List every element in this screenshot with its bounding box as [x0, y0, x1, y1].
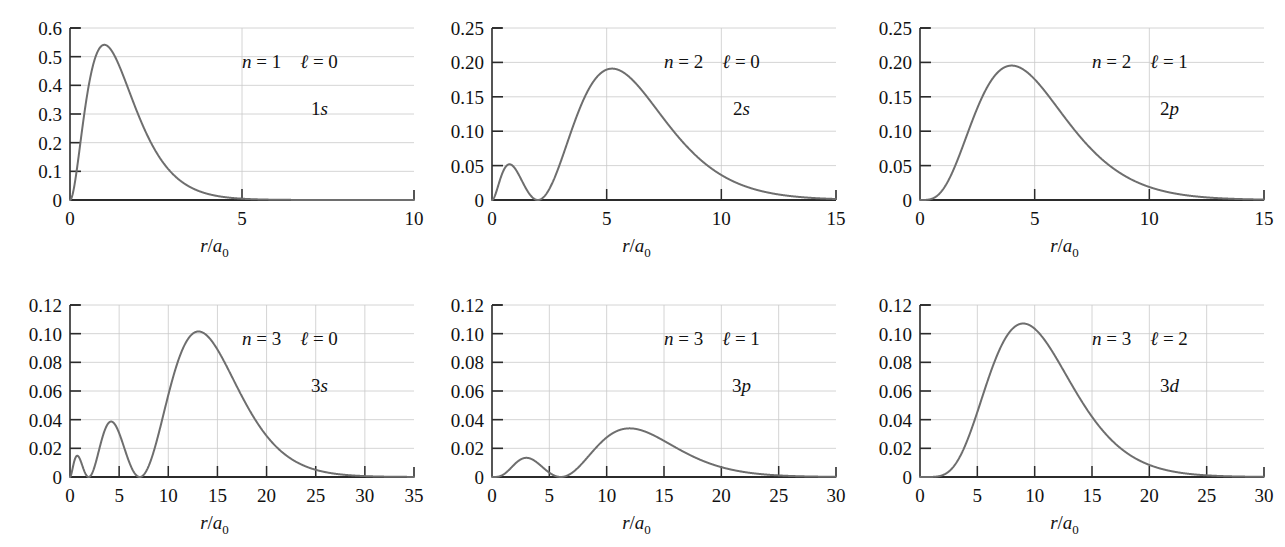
- chart-panel-1s: 00.10.20.30.40.50.60510r/a0n = 1 ℓ = 01s: [8, 8, 428, 270]
- x-axis-label: r/a0: [1050, 235, 1079, 260]
- x-tick-label: 0: [915, 485, 925, 506]
- x-tick-label: 15: [208, 485, 227, 506]
- x-tick-label: 25: [306, 485, 325, 506]
- y-axis-ticks: 00.050.100.150.200.25: [879, 18, 931, 211]
- x-tick-label: 15: [655, 485, 674, 506]
- x-axis-label: r/a0: [622, 512, 651, 537]
- x-tick-label: 30: [355, 485, 374, 506]
- y-axis-ticks: 00.020.040.060.080.100.12: [451, 295, 503, 488]
- x-tick-label: 30: [827, 485, 846, 506]
- y-tick-label: 0: [903, 190, 913, 211]
- y-tick-label: 0.10: [451, 121, 484, 142]
- y-tick-label: 0: [53, 190, 63, 211]
- y-tick-label: 0.10: [879, 121, 912, 142]
- annotation-orbital-label: 3d: [1160, 375, 1180, 396]
- x-tick-label: 5: [1030, 208, 1040, 229]
- plot-svg-3d: 00.020.040.060.080.100.12051015202530r/a…: [858, 285, 1278, 547]
- x-tick-label: 10: [597, 485, 616, 506]
- x-tick-label: 0: [65, 208, 75, 229]
- y-tick-label: 0.02: [879, 438, 912, 459]
- y-tick-label: 0.02: [29, 438, 62, 459]
- x-tick-label: 10: [1140, 208, 1159, 229]
- y-tick-label: 0.3: [38, 104, 62, 125]
- annotation-orbital-label: 1s: [311, 98, 328, 119]
- y-tick-label: 0: [475, 467, 485, 488]
- y-tick-label: 0: [903, 467, 913, 488]
- plot-svg-3p: 00.020.040.060.080.100.12051015202530r/a…: [430, 285, 850, 547]
- x-axis-ticks: 051015202530: [915, 466, 1273, 506]
- chart-panel-3s: 00.020.040.060.080.100.1205101520253035r…: [8, 285, 428, 547]
- annotation-orbital-label: 2p: [1160, 98, 1179, 119]
- annotation-quantum-numbers: n = 3 ℓ = 2: [1092, 328, 1188, 349]
- y-tick-label: 0.15: [451, 87, 484, 108]
- x-axis-label: r/a0: [622, 235, 651, 260]
- y-tick-label: 0.12: [451, 295, 484, 316]
- x-axis-ticks: 051015: [487, 189, 845, 229]
- x-tick-label: 15: [1255, 208, 1274, 229]
- chart-panel-3p: 00.020.040.060.080.100.12051015202530r/a…: [430, 285, 850, 547]
- y-tick-label: 0.06: [29, 381, 62, 402]
- y-tick-label: 0.4: [38, 75, 62, 96]
- y-axis-ticks: 00.050.100.150.200.25: [451, 18, 503, 211]
- curve-2s: [492, 69, 836, 200]
- annotation-quantum-numbers: n = 2 ℓ = 1: [1092, 51, 1188, 72]
- x-axis-ticks: 05101520253035: [65, 466, 423, 506]
- y-tick-label: 0.05: [879, 156, 912, 177]
- chart-panel-2p: 00.050.100.150.200.25051015r/a0n = 2 ℓ =…: [858, 8, 1278, 270]
- y-tick-label: 0.04: [879, 410, 913, 431]
- x-tick-label: 5: [545, 485, 555, 506]
- annotation-quantum-numbers: n = 1 ℓ = 0: [242, 51, 338, 72]
- plot-svg-2p: 00.050.100.150.200.25051015r/a0n = 2 ℓ =…: [858, 8, 1278, 270]
- x-tick-label: 20: [712, 485, 731, 506]
- y-tick-label: 0.25: [879, 18, 912, 39]
- y-tick-label: 0.2: [38, 133, 62, 154]
- annotation-quantum-numbers: n = 2 ℓ = 0: [664, 51, 760, 72]
- plot-svg-3s: 00.020.040.060.080.100.1205101520253035r…: [8, 285, 428, 547]
- y-tick-label: 0.06: [451, 381, 484, 402]
- y-tick-label: 0.5: [38, 47, 62, 68]
- y-axis-ticks: 00.020.040.060.080.100.12: [29, 295, 81, 488]
- x-tick-label: 10: [1025, 485, 1044, 506]
- x-tick-label: 20: [257, 485, 276, 506]
- plot-svg-1s: 00.10.20.30.40.50.60510r/a0n = 1 ℓ = 01s: [8, 8, 428, 270]
- x-tick-label: 35: [405, 485, 424, 506]
- y-tick-label: 0.04: [451, 410, 485, 431]
- y-tick-label: 0.10: [29, 324, 62, 345]
- x-tick-label: 10: [159, 485, 178, 506]
- x-tick-label: 25: [1197, 485, 1216, 506]
- x-tick-label: 15: [1083, 485, 1102, 506]
- x-tick-label: 0: [65, 485, 75, 506]
- y-tick-label: 0.04: [29, 410, 63, 431]
- x-axis-label: r/a0: [200, 512, 229, 537]
- x-tick-label: 15: [827, 208, 846, 229]
- y-tick-label: 0.05: [451, 156, 484, 177]
- curve-2p: [920, 66, 1264, 200]
- x-axis-ticks: 051015202530: [487, 466, 845, 506]
- y-tick-label: 0.12: [879, 295, 912, 316]
- y-tick-label: 0.25: [451, 18, 484, 39]
- x-tick-label: 5: [237, 208, 247, 229]
- y-tick-label: 0.02: [451, 438, 484, 459]
- y-tick-label: 0.15: [879, 87, 912, 108]
- x-tick-label: 10: [405, 208, 424, 229]
- y-tick-label: 0: [53, 467, 63, 488]
- x-axis-label: r/a0: [200, 235, 229, 260]
- x-axis-ticks: 051015: [915, 189, 1273, 229]
- annotation-orbital-label: 3p: [732, 375, 751, 396]
- x-axis-label: r/a0: [1050, 512, 1079, 537]
- x-tick-label: 0: [487, 485, 497, 506]
- y-tick-label: 0: [475, 190, 485, 211]
- x-axis-ticks: 0510: [65, 189, 423, 229]
- y-tick-label: 0.10: [879, 324, 912, 345]
- annotation-quantum-numbers: n = 3 ℓ = 1: [664, 328, 760, 349]
- curve-3s: [70, 331, 414, 477]
- y-tick-label: 0.08: [451, 352, 484, 373]
- x-tick-label: 30: [1255, 485, 1274, 506]
- chart-panel-3d: 00.020.040.060.080.100.12051015202530r/a…: [858, 285, 1278, 547]
- x-tick-label: 5: [973, 485, 983, 506]
- y-tick-label: 0.12: [29, 295, 62, 316]
- chart-panel-2s: 00.050.100.150.200.25051015r/a0n = 2 ℓ =…: [430, 8, 850, 270]
- annotation-orbital-label: 3s: [311, 375, 328, 396]
- y-tick-label: 0.06: [879, 381, 912, 402]
- y-tick-label: 0.08: [879, 352, 912, 373]
